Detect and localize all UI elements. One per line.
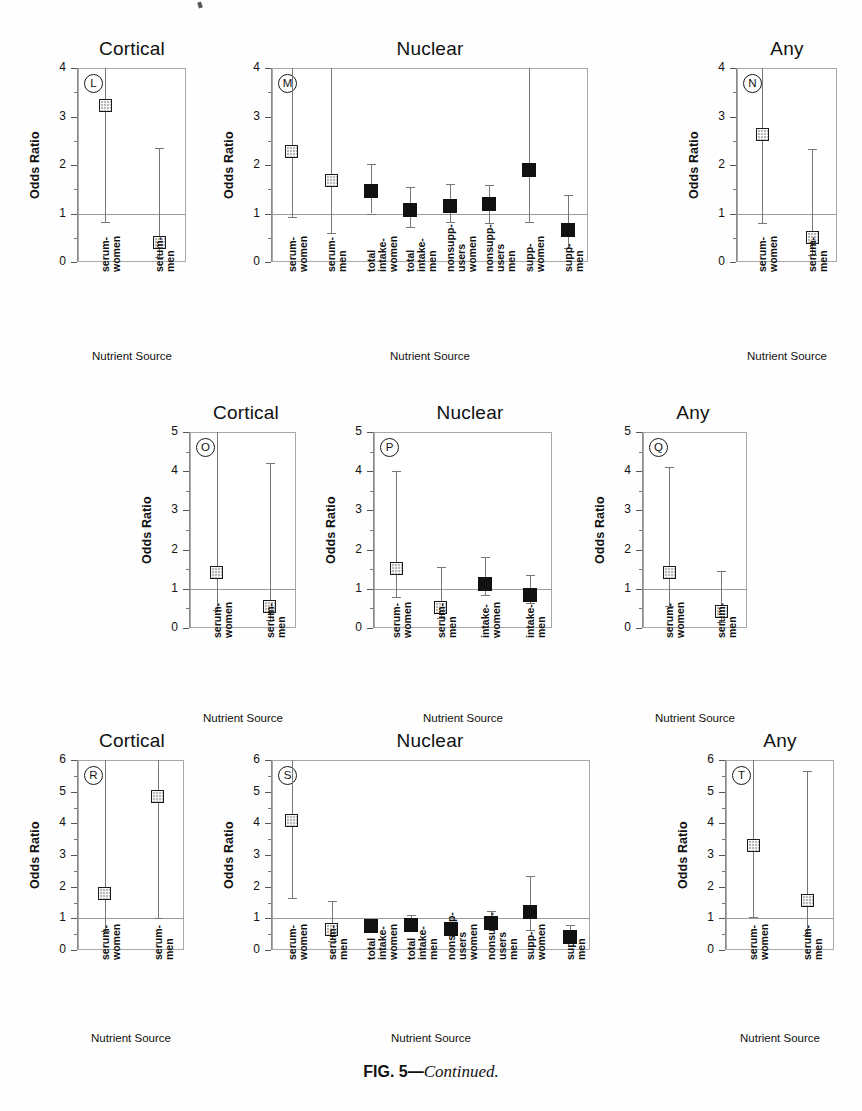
y-tick-label-r-2: 2 xyxy=(38,879,66,893)
y-tick-label-o-0: 0 xyxy=(150,620,178,634)
y-tick-n-2 xyxy=(730,165,736,166)
y-tick-minor-m-3 xyxy=(268,92,272,93)
y-tick-label-t-5: 5 xyxy=(686,784,714,798)
y-tick-s-0 xyxy=(265,950,271,951)
y-tick-p-2 xyxy=(367,550,373,551)
data-point-marker xyxy=(210,566,223,579)
y-tick-minor-s-4 xyxy=(268,808,272,809)
panel-letter-m: M xyxy=(278,74,297,93)
ci-cap-upper xyxy=(717,571,726,572)
y-tick-minor-n-0 xyxy=(733,238,737,239)
y-tick-o-2 xyxy=(183,550,189,551)
x-category-label: serum-women xyxy=(100,924,122,960)
y-tick-minor-o-0 xyxy=(186,608,190,609)
y-tick-t-3 xyxy=(719,855,725,856)
ci-cap-upper xyxy=(566,925,575,926)
x-category-label: supp-women xyxy=(525,924,547,960)
y-tick-minor-q-4 xyxy=(639,452,643,453)
y-tick-n-3 xyxy=(730,117,736,118)
y-tick-minor-t-5 xyxy=(722,776,726,777)
x-category-label: serum-women xyxy=(748,924,770,960)
y-tick-label-m-1: 1 xyxy=(232,206,260,220)
y-tick-minor-m-0 xyxy=(268,238,272,239)
y-tick-label-m-4: 4 xyxy=(232,60,260,74)
reference-line-q xyxy=(643,589,747,590)
y-axis-l xyxy=(77,68,78,262)
y-tick-label-l-0: 0 xyxy=(38,254,66,268)
y-tick-t-0 xyxy=(719,950,725,951)
y-tick-r-0 xyxy=(71,950,77,951)
x-axis-title-q: Nutrient Source xyxy=(625,712,765,724)
ci-whisker xyxy=(292,68,293,217)
ci-cap-lower xyxy=(288,217,297,218)
y-tick-s-3 xyxy=(265,855,271,856)
y-tick-q-0 xyxy=(636,628,642,629)
x-category-label: serum-men xyxy=(436,603,458,638)
y-tick-l-4 xyxy=(71,68,77,69)
y-tick-minor-m-1 xyxy=(268,189,272,190)
x-category-label-line: women xyxy=(468,912,479,960)
x-category-label: serum-men xyxy=(807,237,829,272)
panel-title-s: Nuclear xyxy=(350,730,510,752)
plot-area-o xyxy=(190,432,296,628)
plot-area-l xyxy=(78,68,186,262)
y-tick-t-1 xyxy=(719,918,725,919)
y-tick-minor-l-0 xyxy=(74,238,78,239)
x-axis-title-r: Nutrient Source xyxy=(61,1032,201,1044)
x-category-label-line: men xyxy=(338,925,349,960)
x-category-label-line: women xyxy=(111,924,122,960)
y-tick-minor-p-4 xyxy=(370,452,374,453)
y-axis-label-q: Odds Ratio xyxy=(593,496,607,564)
ci-cap-upper xyxy=(481,557,490,558)
y-tick-label-p-1: 1 xyxy=(334,581,362,595)
panel-letter-p: P xyxy=(380,438,399,457)
ci-cap-upper xyxy=(407,915,416,916)
y-tick-label-q-3: 3 xyxy=(603,502,631,516)
y-tick-t-6 xyxy=(719,760,725,761)
y-tick-o-1 xyxy=(183,589,189,590)
y-tick-minor-t-3 xyxy=(722,839,726,840)
y-tick-q-4 xyxy=(636,471,642,472)
y-tick-r-1 xyxy=(71,918,77,919)
y-tick-label-r-3: 3 xyxy=(38,847,66,861)
ci-cap-lower xyxy=(154,918,163,919)
y-tick-o-0 xyxy=(183,628,189,629)
panel-title-n: Any xyxy=(722,38,852,60)
y-tick-minor-p-1 xyxy=(370,569,374,570)
x-category-label: totalintake-men xyxy=(406,926,439,960)
x-category-label: supp-men xyxy=(565,931,587,960)
y-tick-minor-s-3 xyxy=(268,839,272,840)
x-category-label-line: women xyxy=(298,924,309,960)
y-axis-p xyxy=(373,432,374,628)
x-category-label-line: serum- xyxy=(212,602,223,638)
y-tick-label-q-1: 1 xyxy=(603,581,631,595)
figure-caption-dash: — xyxy=(408,1063,424,1080)
y-tick-minor-o-3 xyxy=(186,491,190,492)
y-tick-minor-r-1 xyxy=(74,903,78,904)
y-tick-label-m-3: 3 xyxy=(232,109,260,123)
ci-cap-upper xyxy=(367,164,376,165)
y-tick-minor-l-2 xyxy=(74,141,78,142)
x-category-label-line: women xyxy=(388,924,399,960)
x-category-label: totalintake-women xyxy=(366,924,399,960)
data-point-marker xyxy=(364,184,378,198)
ci-cap-upper xyxy=(328,901,337,902)
figure-caption: FIG. 5—Continued. xyxy=(0,1062,862,1082)
y-tick-minor-p-3 xyxy=(370,491,374,492)
ci-whisker xyxy=(292,760,293,898)
y-tick-label-s-0: 0 xyxy=(232,942,260,956)
y-axis-label-s: Odds Ratio xyxy=(222,821,236,889)
ci-cap-lower xyxy=(481,595,490,596)
y-tick-label-o-1: 1 xyxy=(150,581,178,595)
y-tick-minor-o-4 xyxy=(186,452,190,453)
y-tick-minor-r-2 xyxy=(74,871,78,872)
ci-cap-lower xyxy=(288,898,297,899)
x-category-label-line: men xyxy=(727,603,738,638)
y-tick-label-n-3: 3 xyxy=(697,109,725,123)
x-category-label-line: men xyxy=(576,931,587,960)
y-tick-label-s-4: 4 xyxy=(232,815,260,829)
x-category-label-line: women xyxy=(111,236,122,272)
y-tick-label-s-1: 1 xyxy=(232,910,260,924)
y-tick-label-p-4: 4 xyxy=(334,463,362,477)
panel-title-t: Any xyxy=(710,730,850,752)
